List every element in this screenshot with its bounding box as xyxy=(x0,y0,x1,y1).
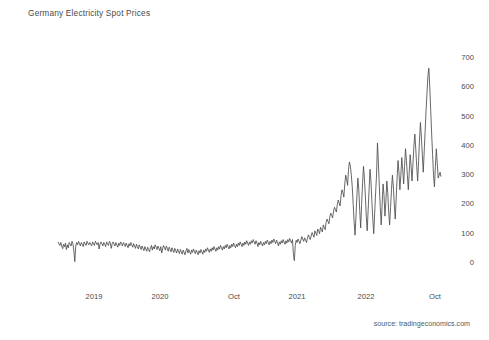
y-tick-label-600: 600 xyxy=(448,83,474,91)
plot-area xyxy=(0,0,489,340)
x-tick-label-2019: 2019 xyxy=(86,292,103,301)
y-tick-label-100: 100 xyxy=(448,230,474,238)
y-tick-label-400: 400 xyxy=(448,142,474,150)
y-tick-label-0: 0 xyxy=(448,259,474,267)
x-tick-label-2021: 2021 xyxy=(289,292,306,301)
y-tick-label-500: 500 xyxy=(448,113,474,121)
x-tick-label-oct-1: Oct xyxy=(228,292,240,301)
line-chart-svg xyxy=(0,0,489,340)
chart-container: Germany Electricity Spot Prices 700 600 … xyxy=(0,0,489,340)
y-tick-label-300: 300 xyxy=(448,171,474,179)
price-line-series xyxy=(58,68,441,261)
y-tick-label-700: 700 xyxy=(448,54,474,62)
y-tick-label-200: 200 xyxy=(448,200,474,208)
x-axis: 2019 2020 Oct 2021 2022 Oct xyxy=(0,292,489,306)
x-tick-label-oct-2: Oct xyxy=(429,292,441,301)
y-axis: 700 600 500 400 300 200 100 0 xyxy=(448,0,482,340)
source-attribution: source: tradingeconomics.com xyxy=(374,320,470,329)
x-tick-label-2020: 2020 xyxy=(152,292,169,301)
x-tick-label-2022: 2022 xyxy=(358,292,375,301)
